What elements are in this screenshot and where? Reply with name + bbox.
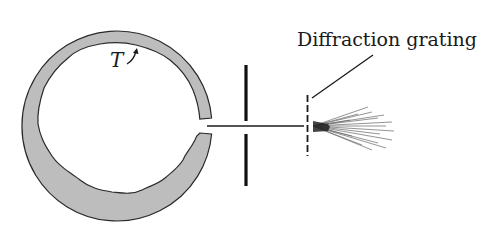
grating-label: Diffraction grating: [297, 28, 477, 50]
blackbody-diffraction-diagram: T Diffraction grating: [0, 0, 490, 232]
grating-leader-line: [312, 55, 373, 98]
temperature-label: T: [110, 48, 139, 72]
temperature-symbol: T: [110, 48, 125, 72]
arrowhead-icon: [133, 48, 139, 54]
